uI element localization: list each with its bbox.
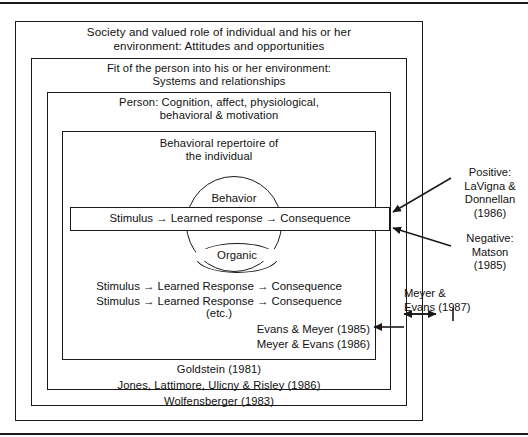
negative-note-line2: Matson bbox=[452, 246, 528, 260]
top-divider-rule bbox=[0, 2, 528, 4]
citation-wolfensberger-1983: Wolfensberger (1983) bbox=[15, 395, 423, 408]
repertoire-layer-label: Behavioral repertoire of the individual bbox=[62, 137, 376, 163]
fit-label-line2: Systems and relationships bbox=[31, 75, 407, 88]
citation-meyer-evans-1986: Meyer & Evans (1986) bbox=[62, 337, 370, 352]
positive-note-line3: Donnellan bbox=[452, 193, 528, 207]
meyer-evans-1987-line1: Meyer & bbox=[404, 287, 476, 301]
society-label-line2: environment: Attitudes and opportunities bbox=[15, 39, 423, 53]
society-layer-label: Society and valued role of individual an… bbox=[15, 25, 423, 52]
negative-note-line1: Negative: bbox=[452, 232, 528, 246]
person-label-line1: Person: Cognition, affect, physiological… bbox=[47, 96, 391, 109]
person-label-line2: behavioral & motivation bbox=[47, 109, 391, 122]
positive-note-line1: Positive: bbox=[452, 166, 528, 180]
meyer-evans-1987-line2: Evans (1987) bbox=[404, 301, 476, 315]
positive-note-line4: (1986) bbox=[452, 207, 528, 221]
stimulus-chain-repeats: Stimulus → Learned Response → Consequenc… bbox=[62, 279, 376, 309]
citation-evans-meyer-1985: Evans & Meyer (1985) bbox=[62, 322, 370, 337]
person-layer-label: Person: Cognition, affect, physiological… bbox=[47, 96, 391, 122]
stimulus-chain-etc: (etc.) bbox=[62, 307, 376, 319]
organic-ellipse-label: Organic bbox=[196, 249, 278, 261]
behavior-circle-label: Behavior bbox=[186, 192, 282, 204]
positive-consequence-note: Positive: LaVigna & Donnellan (1986) bbox=[452, 166, 528, 221]
meyer-evans-1987-note: Meyer & Evans (1987) bbox=[404, 287, 476, 314]
negative-consequence-note: Negative: Matson (1985) bbox=[452, 232, 528, 273]
bottom-divider-rule bbox=[0, 433, 528, 435]
repertoire-label-line1: Behavioral repertoire of bbox=[62, 137, 376, 150]
positive-note-line2: LaVigna & bbox=[452, 180, 528, 194]
fit-label-line1: Fit of the person into his or her enviro… bbox=[31, 62, 407, 75]
stimulus-chain-highlighted: Stimulus → Learned response → Consequenc… bbox=[70, 212, 390, 224]
stimulus-chain-repeat-1: Stimulus → Learned Response → Consequenc… bbox=[62, 279, 376, 294]
society-label-line1: Society and valued role of individual an… bbox=[15, 25, 423, 39]
diagram-canvas: Society and valued role of individual an… bbox=[0, 0, 528, 437]
citation-jones-1986: Jones, Lattimore, Ulicny & Risley (1986) bbox=[31, 379, 407, 392]
repertoire-label-line2: the individual bbox=[62, 150, 376, 163]
fit-layer-label: Fit of the person into his or her enviro… bbox=[31, 62, 407, 88]
evans-meyer-citation-block: Evans & Meyer (1985) Meyer & Evans (1986… bbox=[62, 322, 370, 352]
negative-note-line3: (1985) bbox=[452, 259, 528, 273]
citation-goldstein-1981: Goldstein (1981) bbox=[47, 363, 391, 376]
